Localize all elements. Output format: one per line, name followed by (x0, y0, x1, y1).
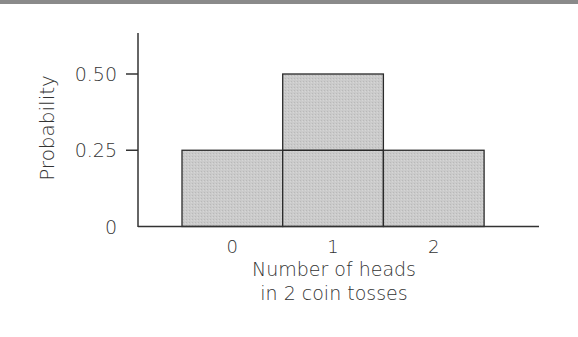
y-axis-label: Probability (35, 75, 59, 181)
y-ticks-group: 00.250.50 (75, 63, 138, 238)
histogram-chart: 00.250.50 012 Probability Number of head… (0, 0, 578, 337)
x-axis-label-line-1: Number of heads (252, 258, 416, 280)
bar-0 (182, 150, 283, 226)
bars-group (182, 74, 484, 227)
y-tick-label: 0.25 (75, 139, 117, 161)
y-tick-label: 0.50 (75, 63, 117, 85)
x-tick-label: 1 (327, 236, 338, 257)
x-ticks-group: 012 (227, 236, 440, 257)
x-axis-label-line-2: in 2 coin tosses (260, 282, 407, 304)
bar-2 (383, 150, 484, 226)
y-tick-label: 0 (105, 216, 117, 238)
x-tick-label: 0 (227, 236, 238, 257)
x-tick-label: 2 (428, 236, 439, 257)
